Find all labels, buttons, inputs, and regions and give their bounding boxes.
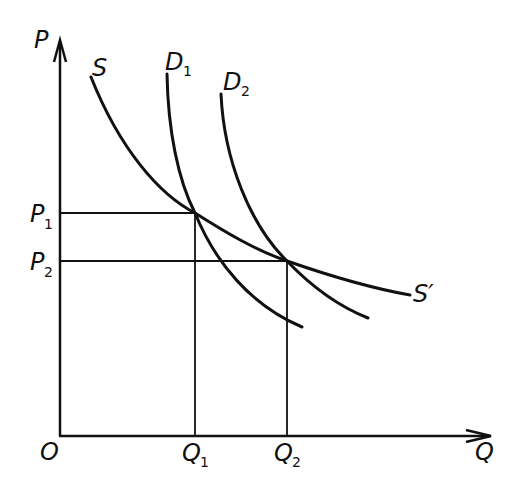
- svg-text:Q: Q: [274, 439, 293, 467]
- svg-text:P: P: [30, 200, 45, 228]
- svg-text:1: 1: [183, 63, 192, 79]
- supply-demand-diagram: P Q O S S′ D 1 D 2 P 1 P 2 Q 1 Q 2: [0, 0, 515, 493]
- demand-curve-2: [221, 94, 368, 318]
- svg-text:2: 2: [44, 264, 53, 280]
- svg-text:D: D: [165, 48, 183, 76]
- y-axis-label: P: [34, 26, 49, 54]
- svg-text:2: 2: [241, 83, 250, 99]
- demand1-label: D 1: [165, 48, 192, 79]
- svg-text:Q: Q: [182, 439, 201, 467]
- origin-label: O: [40, 438, 59, 466]
- demand-curve-1: [167, 74, 302, 327]
- svg-text:P: P: [30, 248, 45, 276]
- supply-label-start: S: [92, 54, 107, 82]
- p2-label: P 2: [30, 248, 53, 280]
- x-axis-label: Q: [475, 438, 494, 466]
- svg-text:1: 1: [200, 454, 209, 470]
- q2-label: Q 2: [274, 439, 301, 470]
- p1-label: P 1: [30, 200, 53, 232]
- svg-text:1: 1: [44, 216, 53, 232]
- supply-label-end: S′: [413, 280, 434, 308]
- svg-text:D: D: [223, 68, 241, 96]
- svg-text:2: 2: [292, 454, 301, 470]
- supply-curve: [91, 77, 410, 295]
- demand2-label: D 2: [223, 68, 250, 99]
- q1-label: Q 1: [182, 439, 209, 470]
